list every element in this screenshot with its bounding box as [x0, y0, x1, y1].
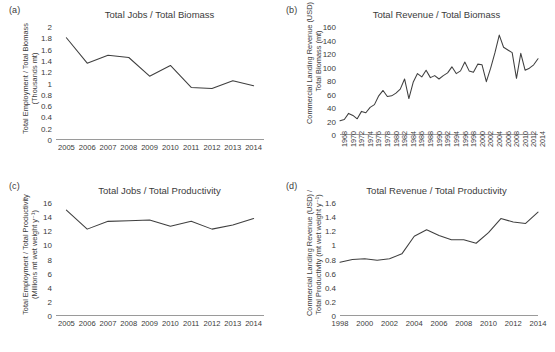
y-tick-label: 16 — [43, 199, 56, 208]
y-tick-label: 0.8 — [41, 90, 56, 99]
x-tick-label: 2008 — [455, 319, 472, 328]
y-tick-label: 160 — [323, 23, 340, 32]
y-tick-label: 1.6 — [325, 199, 340, 208]
y-tick-label: 1.8 — [41, 34, 56, 43]
y-tick-label: 0.2 — [41, 124, 56, 133]
y-tick-label: 80 — [327, 77, 340, 86]
y-axis-label-b: Commercial Landing Revenue (USD) / Total… — [306, 0, 323, 135]
x-tick-label: 2010 — [162, 319, 179, 328]
y-tick-label: 12 — [43, 227, 56, 236]
chart-panel-d: (d) Total Revenue / Total Productivity C… — [277, 176, 554, 352]
x-tick-label: 2008 — [120, 319, 137, 328]
y-tick-label: 1.6 — [41, 45, 56, 54]
series-line-d — [340, 203, 538, 316]
x-tick-label: 2012 — [505, 319, 522, 328]
y-tick-label: 6 — [48, 269, 56, 278]
x-tick-label: 2004 — [406, 319, 423, 328]
y-tick-label: 0.8 — [325, 255, 340, 264]
plot-area-c: 0246810121416200520062007200820092010201… — [56, 203, 264, 316]
y-tick-label: 2 — [48, 23, 56, 32]
y-tick-label: 1.4 — [325, 213, 340, 222]
x-tick-label: 2000 — [356, 319, 373, 328]
x-tick-label: 2002 — [381, 319, 398, 328]
figure-container: (a) Total Jobs / Total Biomass Total Emp… — [0, 0, 555, 352]
plot-area-a: 00.20.40.60.811.21.41.61.822005200620072… — [56, 27, 264, 140]
y-axis-label-a: Total Employment / Total Biomass (Thousa… — [22, 17, 39, 140]
y-tick-label: 20 — [327, 117, 340, 126]
x-tick-label: 2014 — [245, 319, 262, 328]
y-tick-label: 8 — [48, 255, 56, 264]
panel-title-a: Total Jobs / Total Biomass — [48, 9, 271, 20]
x-tick-label: 2006 — [79, 319, 96, 328]
y-tick-label: 60 — [327, 90, 340, 99]
y-tick-label: 10 — [43, 241, 56, 250]
panel-title-b: Total Revenue / Total Biomass — [325, 9, 548, 20]
x-tick-label: 2007 — [100, 319, 117, 328]
series-line-c — [56, 203, 264, 316]
x-tick-label: 2005 — [58, 143, 75, 152]
panel-title-c: Total Jobs / Total Productivity — [48, 185, 271, 196]
x-tick-label: 2011 — [183, 143, 199, 152]
x-tick-label: 2011 — [183, 319, 199, 328]
y-tick-label: 0.4 — [41, 113, 56, 122]
y-tick-label: 14 — [43, 213, 56, 222]
x-tick-label: 2012 — [204, 143, 221, 152]
y-tick-label: 0.6 — [325, 269, 340, 278]
y-tick-label: 4 — [48, 283, 56, 292]
panel-label-a: (a) — [9, 5, 20, 15]
y-axis-label-c: Total Employment / Total Productivity (M… — [22, 193, 39, 316]
y-tick-label: 0.6 — [41, 102, 56, 111]
x-tick-label: 2008 — [120, 143, 137, 152]
series-line-b — [340, 27, 538, 135]
panel-label-b: (b) — [286, 5, 297, 15]
y-tick-label: 0.4 — [325, 283, 340, 292]
y-tick-label: 0 — [48, 136, 56, 145]
y-tick-label: 1.2 — [41, 68, 56, 77]
x-tick-label: 2009 — [141, 319, 158, 328]
x-tick-label: 2006 — [79, 143, 96, 152]
y-tick-label: 2 — [48, 297, 56, 306]
y-tick-label: 1.2 — [325, 227, 340, 236]
chart-panel-b: (b) Total Revenue / Total Biomass Commer… — [277, 0, 554, 176]
plot-area-b: 0204060801001201401601968197019721974197… — [340, 27, 538, 135]
x-tick-label: 2010 — [480, 319, 497, 328]
panel-label-c: (c) — [9, 181, 20, 191]
y-tick-label: 120 — [323, 50, 340, 59]
plot-area-d: 00.20.40.60.811.21.41.619982000200220042… — [340, 203, 538, 316]
y-axis-label-d: Commercial Landing Revenue (USD) / Total… — [306, 193, 323, 316]
y-tick-label: 1.4 — [41, 56, 56, 65]
x-tick-label: 2013 — [224, 143, 241, 152]
y-tick-label: 0 — [48, 312, 56, 321]
x-tick-label: 2014 — [538, 131, 547, 147]
y-tick-label: 0 — [332, 131, 340, 140]
x-tick-label: 2012 — [204, 319, 221, 328]
x-tick-label: 2007 — [100, 143, 117, 152]
chart-panel-c: (c) Total Jobs / Total Productivity Tota… — [0, 176, 277, 352]
x-tick-label: 2014 — [530, 319, 547, 328]
panel-label-d: (d) — [286, 181, 297, 191]
y-tick-label: 40 — [327, 104, 340, 113]
y-tick-label: 100 — [323, 63, 340, 72]
panel-title-d: Total Revenue / Total Productivity — [325, 185, 548, 196]
chart-panel-a: (a) Total Jobs / Total Biomass Total Emp… — [0, 0, 277, 176]
y-tick-label: 140 — [323, 36, 340, 45]
y-tick-label: 1 — [48, 79, 56, 88]
x-tick-label: 2005 — [58, 319, 75, 328]
x-tick-label: 2014 — [245, 143, 262, 152]
x-tick-label: 2010 — [162, 143, 179, 152]
x-tick-label: 1998 — [332, 319, 349, 328]
y-tick-label: 1 — [332, 241, 340, 250]
series-line-a — [56, 27, 264, 140]
y-tick-label: 0.2 — [325, 297, 340, 306]
x-tick-label: 2013 — [224, 319, 241, 328]
x-tick-label: 2009 — [141, 143, 158, 152]
x-tick-label: 2006 — [431, 319, 448, 328]
